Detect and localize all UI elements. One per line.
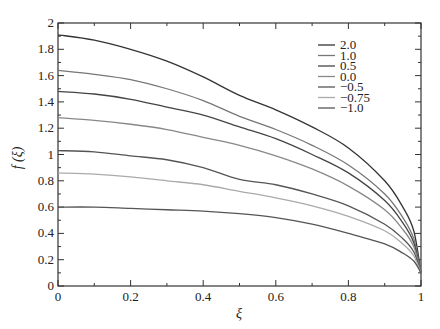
x-tick-label: 0.8: [340, 289, 356, 304]
legend: 2.01.00.50.0−0.5−0.75−1.0: [318, 37, 370, 115]
x-tick-label: 0: [55, 289, 62, 304]
legend-label: −1.0: [340, 100, 364, 115]
y-tick-label: 1.8: [38, 41, 54, 56]
x-tick-label: 0.4: [195, 289, 212, 304]
series-line: [58, 207, 421, 273]
series-line: [58, 91, 421, 272]
line-chart: 00.20.40.60.8100.20.40.60.811.21.41.61.8…: [0, 0, 440, 329]
plot-frame: [58, 23, 421, 286]
data-series: [58, 35, 421, 273]
y-tick-label: 1: [48, 147, 55, 162]
plot-axes: 00.20.40.60.8100.20.40.60.811.21.41.61.8…: [38, 15, 425, 304]
x-tick-label: 0.2: [122, 289, 138, 304]
y-tick-label: 0.8: [38, 173, 54, 188]
y-tick-label: 1.4: [38, 94, 55, 109]
series-line: [58, 151, 421, 273]
y-axis-label: f (ξ): [10, 146, 26, 169]
x-tick-label: 1: [418, 289, 425, 304]
y-tick-label: 1.2: [38, 120, 54, 135]
x-tick-label: 0.6: [268, 289, 285, 304]
x-axis-label: ξ: [236, 306, 242, 321]
y-tick-label: 0.2: [38, 252, 54, 267]
y-tick-label: 2: [48, 15, 55, 30]
y-tick-label: 1.6: [38, 68, 55, 83]
series-line: [58, 173, 421, 273]
series-line: [58, 118, 421, 273]
y-tick-label: 0: [48, 278, 55, 293]
y-tick-label: 0.6: [38, 199, 55, 214]
y-tick-label: 0.4: [38, 225, 55, 240]
